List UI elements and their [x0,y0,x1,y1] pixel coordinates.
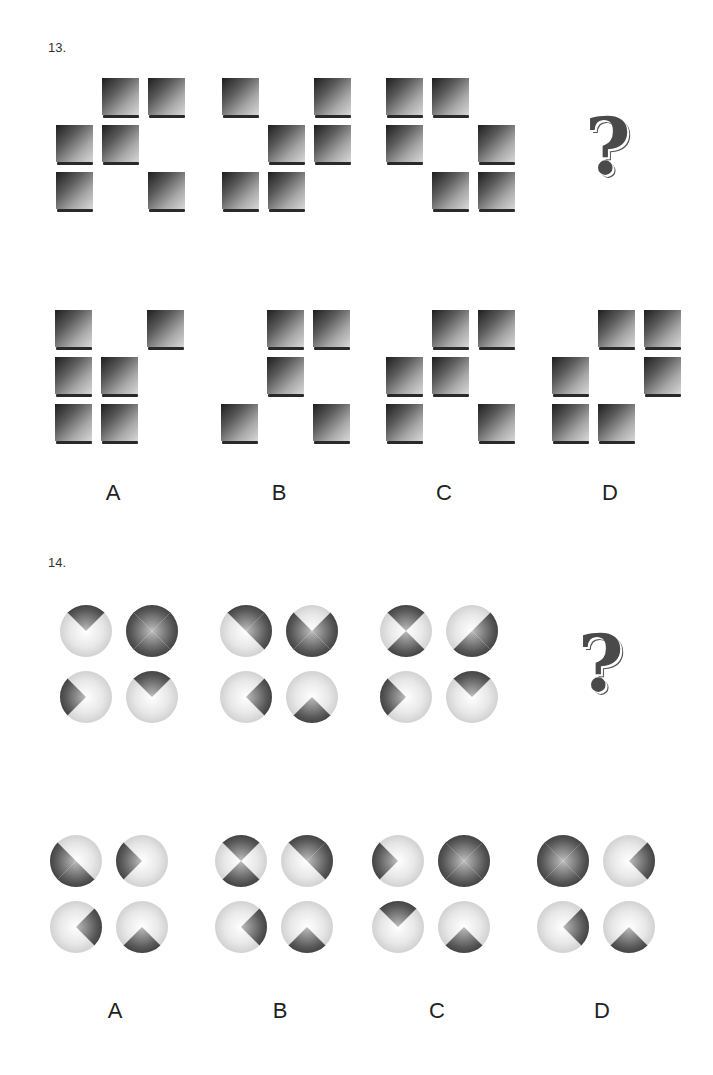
circle-icon [380,605,432,657]
empty-cell [102,172,139,209]
option-d-figure[interactable] [552,310,683,443]
empty-cell [598,357,635,394]
empty-cell [313,357,350,394]
square-tile [432,78,469,115]
square-tile [148,78,185,115]
square-tile [432,357,469,394]
square-tile [552,404,589,441]
sequence-figure-1 [60,605,178,723]
empty-cell [267,404,304,441]
empty-cell [56,78,93,115]
square-tile [147,310,184,347]
empty-cell [221,310,258,347]
empty-cell [222,125,259,162]
option-a-label: A [93,480,133,506]
square-tile [267,310,304,347]
sequence-figure-3 [386,78,517,211]
square-tile [598,310,635,347]
square-tile [267,357,304,394]
option-c-label: C [417,998,457,1024]
square-tile [478,310,515,347]
square-tile [313,310,350,347]
sequence-figure-2 [220,605,338,723]
circle-icon [438,901,490,953]
square-tile [268,125,305,162]
option-c-figure[interactable] [372,835,490,953]
option-a-figure[interactable] [50,835,168,953]
empty-cell [644,404,681,441]
empty-cell [432,125,469,162]
question-mark-icon-14: ? [578,625,624,703]
problem-14-number: 14. [48,555,66,570]
circle-icon [60,671,112,723]
square-tile [314,78,351,115]
problem-13-number: 13. [48,40,66,55]
square-tile [222,78,259,115]
option-c-label: C [424,480,464,506]
square-tile [598,404,635,441]
circle-icon [60,605,112,657]
square-tile [102,125,139,162]
circle-icon [50,901,102,953]
square-tile [478,172,515,209]
square-tile [386,125,423,162]
square-tile [221,404,258,441]
square-tile [101,404,138,441]
empty-cell [314,172,351,209]
square-tile [432,310,469,347]
square-tile [478,125,515,162]
circle-icon [116,901,168,953]
circle-icon [537,835,589,887]
empty-cell [552,310,589,347]
empty-cell [386,172,423,209]
square-tile [313,404,350,441]
circle-icon [286,605,338,657]
circle-icon [126,605,178,657]
square-tile [148,172,185,209]
option-d-figure[interactable] [537,835,655,953]
square-tile [644,357,681,394]
sequence-figure-3 [380,605,498,723]
circle-icon [215,901,267,953]
square-tile [222,172,259,209]
option-d-label: D [582,998,622,1024]
square-tile [478,404,515,441]
square-tile [55,310,92,347]
empty-cell [147,357,184,394]
option-c-figure[interactable] [386,310,517,443]
empty-cell [147,404,184,441]
circle-icon [537,901,589,953]
circle-icon [215,835,267,887]
empty-cell [268,78,305,115]
square-tile [101,357,138,394]
option-d-label: D [590,480,630,506]
square-tile [314,125,351,162]
square-tile [56,125,93,162]
square-tile [102,78,139,115]
square-tile [552,357,589,394]
option-a-figure[interactable] [55,310,186,443]
question-mark-icon-13: ? [585,108,631,186]
circle-icon [372,835,424,887]
circle-icon [603,901,655,953]
square-tile [268,172,305,209]
circle-icon [220,671,272,723]
option-b-label: B [260,998,300,1024]
option-b-figure[interactable] [215,835,333,953]
circle-icon [50,835,102,887]
circle-icon [380,671,432,723]
empty-cell [101,310,138,347]
circle-icon [372,901,424,953]
circle-icon [116,835,168,887]
empty-cell [478,357,515,394]
circle-icon [286,671,338,723]
circle-icon [220,605,272,657]
square-tile [55,357,92,394]
square-tile [432,172,469,209]
option-b-figure[interactable] [221,310,352,443]
sequence-figure-2 [222,78,353,211]
square-tile [644,310,681,347]
circle-icon [126,671,178,723]
empty-cell [221,357,258,394]
empty-cell [478,78,515,115]
